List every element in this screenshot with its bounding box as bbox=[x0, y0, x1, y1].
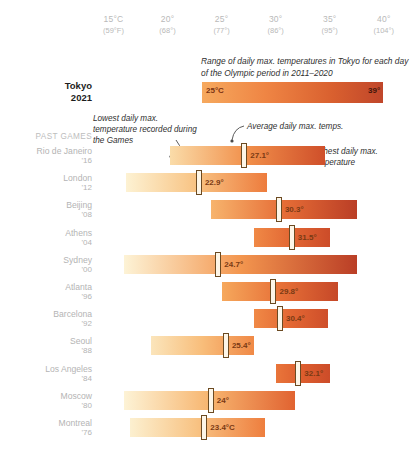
average-marker bbox=[208, 388, 214, 413]
row-city: Athens bbox=[0, 228, 92, 238]
chart-row: Athens'0431.5° bbox=[0, 228, 415, 255]
axis-tick-fahrenheit: (59°F) bbox=[83, 25, 143, 36]
tokyo-city: Tokyo bbox=[0, 80, 92, 92]
average-value: 29.8° bbox=[279, 287, 298, 296]
average-value: 23.4°C bbox=[210, 423, 235, 432]
row-year: '76 bbox=[0, 428, 92, 438]
chart-row: Sydney'0024.7° bbox=[0, 255, 415, 282]
row-city: Seoul bbox=[0, 336, 92, 346]
average-value: 30.3° bbox=[285, 205, 304, 214]
range-bar bbox=[130, 418, 265, 437]
average-value: 27.1° bbox=[250, 151, 269, 160]
chart-row: Los Angeles'8432.1° bbox=[0, 364, 415, 391]
average-marker bbox=[215, 252, 221, 277]
row-label-beijing: Beijing'08 bbox=[0, 200, 92, 220]
average-marker bbox=[276, 197, 282, 222]
axis-tick-20: 20°(68°) bbox=[138, 14, 198, 36]
average-marker bbox=[201, 415, 207, 440]
chart-row: Montreal'7623.4°C bbox=[0, 418, 415, 445]
row-label-los-angeles: Los Angeles'84 bbox=[0, 364, 92, 384]
row-year: '12 bbox=[0, 183, 92, 193]
row-year: '88 bbox=[0, 346, 92, 356]
axis-tick-celsius: 15°C bbox=[83, 14, 143, 25]
row-year: '92 bbox=[0, 319, 92, 329]
row-label-london: London'12 bbox=[0, 173, 92, 193]
axis-tick-celsius: 35° bbox=[300, 14, 360, 25]
row-year: '04 bbox=[0, 238, 92, 248]
axis-tick-celsius: 30° bbox=[246, 14, 306, 25]
row-city: Sydney bbox=[0, 255, 92, 265]
average-value: 24° bbox=[217, 396, 229, 405]
tokyo-range-note: Range of daily max. temperatures in Toky… bbox=[201, 56, 413, 79]
axis-tick-15: 15°C(59°F) bbox=[83, 14, 143, 36]
average-marker bbox=[270, 279, 276, 304]
axis-tick-celsius: 40° bbox=[354, 14, 414, 25]
average-value: 25.4° bbox=[232, 341, 251, 350]
chart-row: Beijing'0830.3° bbox=[0, 200, 415, 227]
range-bar bbox=[211, 200, 357, 219]
row-city: Beijing bbox=[0, 200, 92, 210]
axis-tick-25: 25°(77°) bbox=[192, 14, 252, 36]
tokyo-year: 2021 bbox=[0, 92, 92, 104]
axis-tick-40: 40°(104°) bbox=[354, 14, 414, 36]
row-label-sydney: Sydney'00 bbox=[0, 255, 92, 275]
temperature-axis: 15°C(59°F)20°(68°)25°(77°)30°(86°)35°(95… bbox=[0, 14, 415, 44]
axis-tick-celsius: 20° bbox=[138, 14, 198, 25]
row-city: Rio de Janeiro bbox=[0, 146, 92, 156]
chart-row: Rio de Janeiro'1627.1° bbox=[0, 146, 415, 173]
average-marker bbox=[277, 306, 283, 331]
row-year: '80 bbox=[0, 401, 92, 411]
row-city: Atlanta bbox=[0, 282, 92, 292]
axis-tick-celsius: 25° bbox=[192, 14, 252, 25]
axis-tick-fahrenheit: (77°) bbox=[192, 25, 252, 36]
axis-tick-fahrenheit: (68°) bbox=[138, 25, 198, 36]
chart-row: Atlanta'9629.8° bbox=[0, 282, 415, 309]
row-label-montreal: Montreal'76 bbox=[0, 418, 92, 438]
row-year: '00 bbox=[0, 265, 92, 275]
axis-tick-fahrenheit: (86°) bbox=[246, 25, 306, 36]
row-label-moscow: Moscow'80 bbox=[0, 391, 92, 411]
average-value: 32.1° bbox=[304, 369, 323, 378]
chart-row: Moscow'8024° bbox=[0, 391, 415, 418]
average-marker bbox=[295, 361, 301, 386]
axis-tick-35: 35°(95°) bbox=[300, 14, 360, 36]
average-value: 24.7° bbox=[224, 260, 243, 269]
row-city: Barcelona bbox=[0, 309, 92, 319]
chart-row: London'1222.9° bbox=[0, 173, 415, 200]
row-label-rio-de-janeiro: Rio de Janeiro'16 bbox=[0, 146, 92, 166]
average-marker bbox=[223, 333, 229, 358]
past-games-header: PAST GAMES bbox=[0, 132, 92, 141]
row-year: '16 bbox=[0, 156, 92, 166]
average-value: 22.9° bbox=[205, 178, 224, 187]
row-city: Montreal bbox=[0, 418, 92, 428]
row-label-barcelona: Barcelona'92 bbox=[0, 309, 92, 329]
range-bar bbox=[170, 146, 326, 165]
tokyo-min-value: 25°C bbox=[206, 86, 224, 95]
annotation-lowest: Lowest daily max. temperature recorded d… bbox=[93, 113, 198, 146]
average-marker bbox=[196, 170, 202, 195]
average-marker bbox=[289, 225, 295, 250]
row-year: '96 bbox=[0, 292, 92, 302]
axis-tick-fahrenheit: (95°) bbox=[300, 25, 360, 36]
tokyo-max-value: 39° bbox=[368, 86, 380, 95]
row-label-atlanta: Atlanta'96 bbox=[0, 282, 92, 302]
average-value: 30.4° bbox=[286, 314, 305, 323]
row-city: Moscow bbox=[0, 391, 92, 401]
row-city: Los Angeles bbox=[0, 364, 92, 374]
tokyo-row-label: Tokyo 2021 bbox=[0, 80, 92, 103]
row-year: '08 bbox=[0, 210, 92, 220]
row-label-athens: Athens'04 bbox=[0, 228, 92, 248]
chart-row: Barcelona'9230.4° bbox=[0, 309, 415, 336]
axis-tick-fahrenheit: (104°) bbox=[354, 25, 414, 36]
row-year: '84 bbox=[0, 374, 92, 384]
average-value: 31.5° bbox=[298, 233, 317, 242]
average-marker bbox=[241, 143, 247, 168]
chart-row: Seoul'8825.4° bbox=[0, 336, 415, 363]
row-city: London bbox=[0, 173, 92, 183]
row-label-seoul: Seoul'88 bbox=[0, 336, 92, 356]
axis-tick-30: 30°(86°) bbox=[246, 14, 306, 36]
annotation-average: Average daily max. temps. bbox=[247, 121, 377, 132]
tokyo-range-bar bbox=[202, 82, 383, 103]
